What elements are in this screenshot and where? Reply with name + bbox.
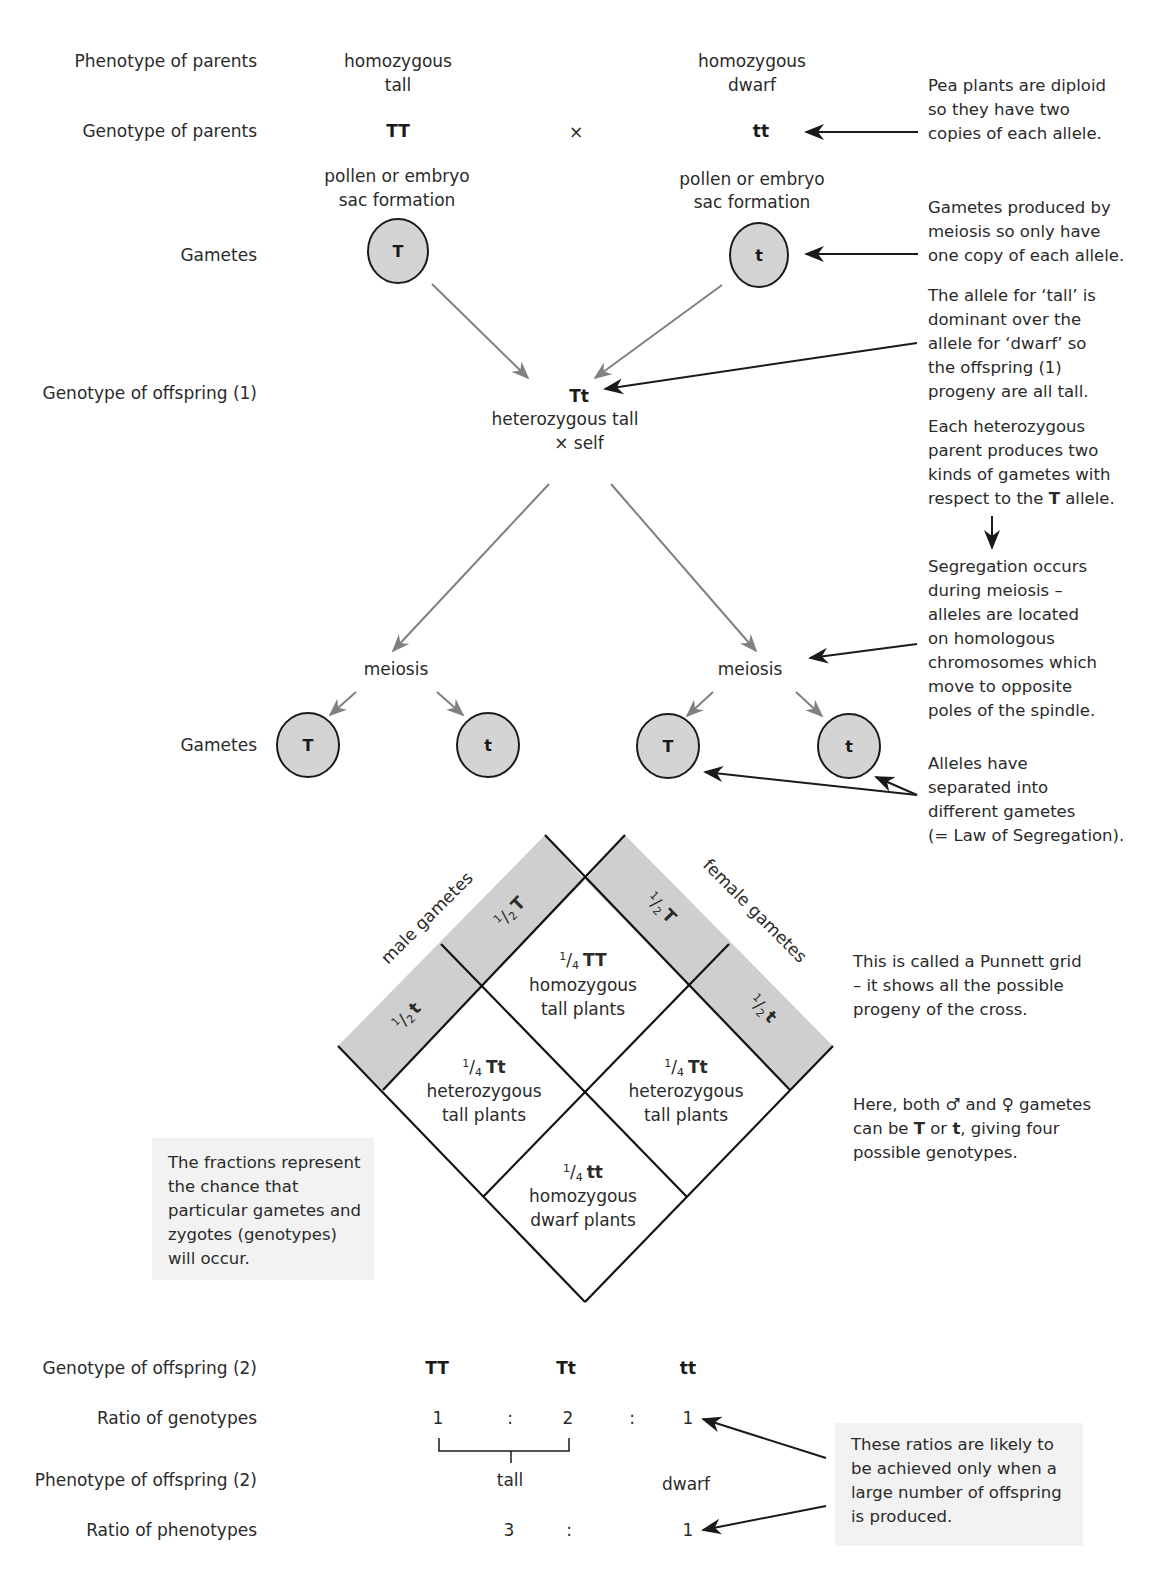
male-symbol-icon: ♂ bbox=[945, 1095, 960, 1114]
label-gametes-1: Gametes bbox=[180, 245, 257, 265]
genotype-ratio: 1 : 2 : 1 bbox=[433, 1408, 694, 1428]
arrow-f1-to-meiosis-right-icon bbox=[611, 484, 756, 651]
arrow-meiosis-left-to-T-icon bbox=[330, 692, 356, 715]
arrow-right-gamete-to-f1-icon bbox=[595, 285, 722, 378]
label-genotype-offspring-2: Genotype of offspring (2) bbox=[42, 1358, 257, 1378]
note-ratios-box: These ratios are likely to be achieved o… bbox=[835, 1423, 1083, 1546]
note-punnett-line2: – it shows all the possible bbox=[853, 976, 1064, 995]
arrow-meiosis-left-to-t-icon bbox=[437, 692, 463, 715]
note-dominant: The allele for ‘tall’ is dominant over t… bbox=[927, 286, 1096, 401]
parent-left: homozygous tall TT pollen or embryo sac … bbox=[324, 51, 469, 283]
note-seg-line1: Segregation occurs bbox=[928, 557, 1087, 576]
meiosis-right-label: meiosis bbox=[718, 659, 783, 679]
note-het-line3: kinds of gametes with bbox=[928, 465, 1110, 484]
note-segregation: Segregation occurs during meiosis – alle… bbox=[928, 557, 1097, 720]
note-seg-line7: poles of the spindle. bbox=[928, 701, 1095, 720]
note-diploid-line2: so they have two bbox=[928, 100, 1070, 119]
note-gametes-meiosis: Gametes produced by meiosis so only have… bbox=[928, 198, 1124, 265]
offspring-1: Tt heterozygous tall × self bbox=[491, 386, 638, 453]
ratio-geno-sep-1: : bbox=[507, 1408, 513, 1428]
parent-left-phenotype-line1: homozygous bbox=[344, 51, 452, 71]
label-genotype-offspring-1: Genotype of offspring (1) bbox=[42, 383, 257, 403]
note-gametes-line1: Gametes produced by bbox=[928, 198, 1111, 217]
note-gametes-line3: one copy of each allele. bbox=[928, 246, 1124, 265]
gamete-parent-right-allele: t bbox=[755, 246, 763, 265]
note-law-line1: Alleles have bbox=[928, 754, 1028, 773]
genotype-TT: TT bbox=[425, 1358, 449, 1378]
parent-left-phenotype-line2: tall bbox=[385, 75, 412, 95]
punnett-grid: male gametes female gametes 1/2T 1/2t 1/… bbox=[338, 835, 833, 1302]
note-fractions-line5: will occur. bbox=[168, 1249, 250, 1268]
note-seg-line5: chromosomes which bbox=[928, 653, 1097, 672]
note-law: Alleles have separated into different ga… bbox=[928, 754, 1124, 845]
note-fractions-line1: The fractions represent bbox=[167, 1153, 361, 1172]
cell-bottom-line2: dwarf plants bbox=[530, 1210, 636, 1230]
offspring-2-genotypes: TT Tt tt bbox=[425, 1358, 696, 1378]
arrow-ratios-to-genotype-icon bbox=[703, 1419, 826, 1458]
gamete-4-allele: t bbox=[845, 737, 853, 756]
parent-right: homozygous dwarf tt pollen or embryo sac… bbox=[679, 51, 824, 287]
note-punnett-line1: This is called a Punnett grid bbox=[852, 952, 1082, 971]
parent-right-phenotype-line2: dwarf bbox=[728, 75, 777, 95]
note-fractions-box: The fractions represent the chance that … bbox=[152, 1138, 374, 1280]
genotype-Tt: Tt bbox=[556, 1358, 576, 1378]
gametes-row-2: T t T t bbox=[277, 713, 880, 778]
note-punnett-grid: This is called a Punnett grid – it shows… bbox=[852, 952, 1082, 1019]
label-ratio-genotypes: Ratio of genotypes bbox=[97, 1408, 257, 1428]
parent-right-formation-line1: pollen or embryo bbox=[679, 169, 824, 189]
note-law-line4: (= Law of Segregation). bbox=[928, 826, 1124, 845]
cell-left-line1: heterozygous bbox=[426, 1081, 541, 1101]
note-fractions-line4: zygotes (genotypes) bbox=[168, 1225, 337, 1244]
note-seg-line4: on homologous bbox=[928, 629, 1055, 648]
arrow-meiosis-right-to-t-icon bbox=[796, 692, 822, 716]
note-het-line2: parent produces two bbox=[928, 441, 1098, 460]
note-het-line4: respect to the T allele. bbox=[928, 489, 1115, 508]
parent-right-phenotype-line1: homozygous bbox=[698, 51, 806, 71]
female-symbol-icon: ♀ bbox=[1002, 1095, 1014, 1114]
note-dominant-line4: the offspring (1) bbox=[928, 358, 1062, 377]
note-punnett-line3: progeny of the cross. bbox=[853, 1000, 1028, 1019]
parent-left-formation-line2: sac formation bbox=[339, 190, 456, 210]
label-genotype-parents: Genotype of parents bbox=[82, 121, 257, 141]
note-dominant-line1: The allele for ‘tall’ is bbox=[927, 286, 1096, 305]
arrow-dominant-note-icon bbox=[605, 343, 917, 389]
note-both-line2: can be T or t, giving four bbox=[853, 1119, 1060, 1138]
parent-right-formation-line2: sac formation bbox=[694, 192, 811, 212]
offspring-1-line1: heterozygous tall bbox=[491, 409, 638, 429]
arrow-ratios-to-phenotype-icon bbox=[703, 1506, 826, 1530]
meiosis-left-label: meiosis bbox=[364, 659, 429, 679]
ratio-pheno-sep: : bbox=[566, 1520, 572, 1540]
note-ratios-line1: These ratios are likely to bbox=[850, 1435, 1054, 1454]
parent-left-formation-line1: pollen or embryo bbox=[324, 166, 469, 186]
parent-left-genotype: TT bbox=[386, 121, 410, 141]
note-diploid-line1: Pea plants are diploid bbox=[928, 76, 1106, 95]
arrow-meiosis-right-to-T-icon bbox=[687, 692, 713, 716]
note-seg-line3: alleles are located bbox=[928, 605, 1079, 624]
note-dominant-line2: dominant over the bbox=[928, 310, 1081, 329]
ratio-pheno-tall: 3 bbox=[504, 1520, 515, 1540]
ratio-pheno-dwarf: 1 bbox=[683, 1520, 694, 1540]
note-ratios-line2: be achieved only when a bbox=[851, 1459, 1057, 1478]
note-seg-line2: during meiosis – bbox=[928, 581, 1063, 600]
note-ratios-line4: is produced. bbox=[851, 1507, 952, 1526]
arrow-left-gamete-to-f1-icon bbox=[432, 284, 528, 378]
cell-left-line2: tall plants bbox=[442, 1105, 526, 1125]
note-diploid: Pea plants are diploid so they have two … bbox=[928, 76, 1106, 143]
note-heterozygous: Each heterozygous parent produces two ki… bbox=[928, 417, 1115, 508]
offspring-1-genotype: Tt bbox=[569, 386, 589, 406]
note-diploid-line3: copies of each allele. bbox=[928, 124, 1102, 143]
label-phenotype-parents: Phenotype of parents bbox=[75, 51, 258, 71]
row-labels: Phenotype of parents Genotype of parents… bbox=[35, 51, 258, 1540]
parent-right-genotype: tt bbox=[753, 121, 769, 141]
arrow-f1-to-meiosis-left-icon bbox=[393, 484, 549, 651]
phenotype-tall: tall bbox=[497, 1470, 524, 1490]
note-law-line3: different gametes bbox=[928, 802, 1075, 821]
ratio-geno-TT: 1 bbox=[433, 1408, 444, 1428]
offspring-1-line2: × self bbox=[554, 433, 605, 453]
monohybrid-cross-diagram: Phenotype of parents Genotype of parents… bbox=[0, 0, 1156, 1571]
gamete-2-allele: t bbox=[484, 736, 492, 755]
note-both-line1: Here, both ♂ and ♀ gametes bbox=[853, 1095, 1091, 1114]
label-gametes-2: Gametes bbox=[180, 735, 257, 755]
cell-bottom-line1: homozygous bbox=[529, 1186, 637, 1206]
genotype-tt: tt bbox=[680, 1358, 696, 1378]
